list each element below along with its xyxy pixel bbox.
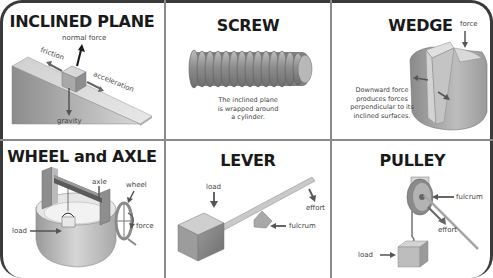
screw-caption: The inclined plane is wrapped around a c…	[166, 96, 330, 122]
panel-inclined-plane: INCLINED PLANE normal force friction	[0, 0, 164, 139]
label-load: load	[358, 251, 373, 259]
label-effort: effort	[306, 204, 325, 212]
pulley-illustration	[332, 141, 493, 278]
wheel-and-axle-illustration	[0, 141, 164, 278]
label-load: load	[12, 227, 27, 235]
wedge-caption: Downward force produces forces perpendic…	[344, 86, 420, 120]
label-wheel: wheel	[126, 181, 147, 189]
inclined-plane-illustration	[0, 0, 164, 139]
panel-wheel-and-axle: WHEEL and AXLE axle wheel load force	[0, 141, 164, 278]
label-fulcrum: fulcrum	[456, 193, 483, 201]
panel-wedge: WEDGE force Downward force produces forc…	[332, 0, 493, 139]
label-normal-force: normal force	[62, 34, 106, 42]
label-force: force	[136, 222, 154, 230]
panel-screw: SCREW The inclined plane is wrap	[166, 0, 330, 139]
label-effort: effort	[438, 226, 457, 234]
label-axle: axle	[92, 178, 107, 186]
panel-pulley: PULLEY fulcrum effort load	[332, 141, 493, 278]
panel-lever: LEVER load effort fulcrum	[166, 141, 330, 278]
label-fulcrum: fulcrum	[289, 222, 316, 230]
label-gravity: gravity	[57, 117, 82, 125]
label-load: load	[206, 183, 221, 191]
